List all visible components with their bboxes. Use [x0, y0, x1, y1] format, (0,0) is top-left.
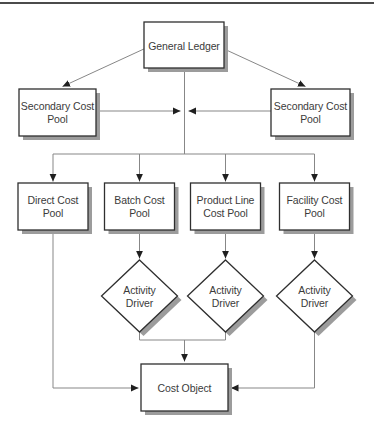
edge-driver3-costobject [231, 332, 315, 388]
node-label: Batch Cost [114, 194, 165, 206]
node-label: Driver [301, 297, 329, 309]
flowchart-canvas: General Ledger Secondary Cost Pool Secon… [0, 0, 374, 428]
node-activity-driver-2: Activity Driver [188, 260, 268, 336]
node-direct-cost-pool: Direct Cost Pool [18, 183, 92, 234]
diagram-page: General Ledger Secondary Cost Pool Secon… [0, 0, 374, 428]
node-label: Cost Object [158, 382, 212, 394]
edge-gl-secondary-right [222, 48, 306, 87]
node-diamond [102, 260, 178, 332]
node-label: General Ledger [148, 40, 220, 52]
node-label: Pool [300, 113, 321, 125]
node-label: Driver [212, 297, 240, 309]
node-label: Cost Pool [203, 207, 248, 219]
node-batch-cost-pool: Batch Cost Pool [105, 183, 179, 234]
node-diamond [188, 260, 264, 332]
node-label: Pool [47, 113, 68, 125]
node-label: Product Line [197, 194, 255, 206]
node-label: Pool [129, 207, 150, 219]
node-label: Activity [123, 284, 156, 296]
node-activity-driver-1: Activity Driver [102, 260, 182, 336]
node-label: Secondary Cost [21, 100, 94, 112]
node-label: Activity [209, 284, 242, 296]
node-product-line-cost-pool: Product Line Cost Pool [191, 183, 265, 234]
node-label: Pool [304, 207, 325, 219]
node-secondary-cost-pool-left: Secondary Cost Pool [19, 89, 100, 140]
node-facility-cost-pool: Facility Cost Pool [280, 183, 354, 234]
edge-gl-secondary-left [63, 48, 147, 87]
node-label: Driver [126, 297, 154, 309]
node-label: Direct Cost [28, 194, 79, 206]
node-label: Activity [298, 284, 331, 296]
node-label: Facility Cost [287, 194, 343, 206]
node-label: Secondary Cost [274, 100, 347, 112]
node-cost-object: Cost Object [141, 364, 232, 415]
node-secondary-cost-pool-right: Secondary Cost Pool [271, 89, 354, 140]
node-diamond [277, 260, 353, 332]
node-general-ledger: General Ledger [144, 22, 228, 72]
node-activity-driver-3: Activity Driver [277, 260, 357, 336]
node-label: Pool [43, 207, 64, 219]
